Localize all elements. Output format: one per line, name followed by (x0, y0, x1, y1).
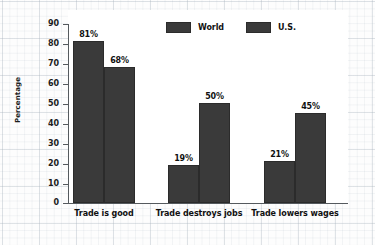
y-axis-tick (63, 203, 68, 204)
bar-value-label: 21% (264, 151, 295, 159)
y-axis-tick (63, 164, 68, 165)
legend-swatch-icon (246, 22, 271, 33)
x-axis-line (68, 203, 348, 204)
bar-us-trade-destroys-jobs (199, 103, 230, 203)
y-axis-tick (63, 184, 68, 185)
y-axis-tick-label: 50 (19, 100, 59, 108)
chart-legend: World U.S. (166, 22, 296, 33)
y-axis-tick-label: 70 (19, 60, 59, 68)
y-axis-tick-label: 90 (19, 20, 59, 28)
bar-value-label: 45% (295, 103, 326, 111)
y-axis-tick-label: 0 (19, 199, 59, 207)
y-axis-tick (63, 64, 68, 65)
bar-world-trade-destroys-jobs (168, 165, 199, 203)
legend-label-world: World (198, 24, 224, 32)
legend-label-us: U.S. (278, 24, 296, 32)
y-axis-tick (63, 84, 68, 85)
legend-item-us: U.S. (246, 22, 296, 33)
y-axis-tick (63, 104, 68, 105)
x-axis-category-label-trade-lowers-wages: Trade lowers wages (235, 210, 355, 218)
bar-value-label: 81% (73, 31, 104, 39)
bar-world-trade-is-good (73, 41, 104, 203)
y-axis-title: Percentage (14, 65, 22, 135)
y-axis-tick (63, 144, 68, 145)
y-axis-tick-label: 30 (19, 140, 59, 148)
bar-world-trade-lowers-wages (264, 161, 295, 203)
bar-value-label: 50% (199, 93, 230, 101)
legend-item-world: World (166, 22, 224, 33)
y-axis-tick (63, 24, 68, 25)
bar-value-label: 68% (104, 57, 135, 65)
y-axis-tick-label: 40 (19, 120, 59, 128)
bar-us-trade-is-good (104, 67, 135, 203)
bar-us-trade-lowers-wages (295, 113, 326, 203)
legend-swatch-icon (166, 22, 191, 33)
y-axis-tick-label: 60 (19, 80, 59, 88)
y-axis-tick (63, 44, 68, 45)
y-axis-tick (63, 124, 68, 125)
y-axis-line (68, 24, 69, 204)
y-axis-tick-label: 10 (19, 180, 59, 188)
y-axis-tick-label: 80 (19, 40, 59, 48)
bar-value-label: 19% (168, 155, 199, 163)
bar-chart-figure: 90 80 70 60 50 40 30 20 10 0 Percentage … (0, 0, 375, 245)
y-axis-tick-label: 20 (19, 160, 59, 168)
